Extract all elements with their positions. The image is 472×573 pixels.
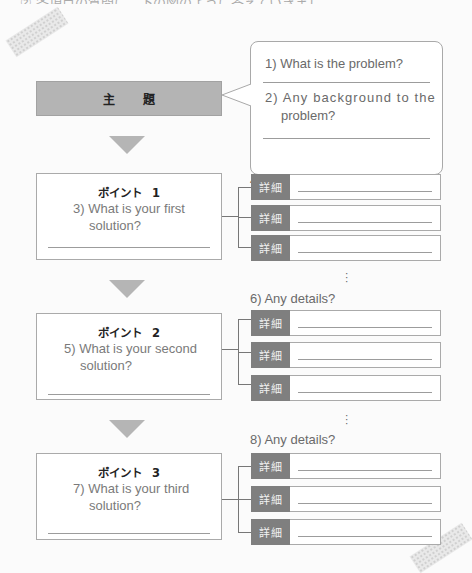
connector-line (238, 319, 251, 320)
bubble-question-2-line2: problem? (265, 108, 335, 123)
point-2-question: 5) What is your second solution? (64, 340, 197, 374)
connector-line (238, 466, 251, 467)
detail-tag: 詳細 (251, 453, 290, 479)
point-1-box: ポイント1 3) What is your first solution? (36, 173, 222, 260)
detail-row: 詳細 (251, 235, 441, 261)
detail-tag: 詳細 (251, 310, 290, 336)
down-arrow-icon (109, 136, 145, 154)
detail-answer-line[interactable] (298, 536, 432, 537)
point-question-line1: 7) What is your third (73, 481, 189, 496)
detail-answer-line[interactable] (298, 222, 432, 223)
point-question-line1: 5) What is your second (64, 341, 197, 356)
detail-answer-line[interactable] (298, 327, 432, 328)
point-question-line2: solution? (73, 217, 185, 234)
detail-row: 詳細 (251, 486, 441, 512)
detail-row: 詳細 (251, 205, 441, 231)
connector-line (238, 499, 251, 500)
down-arrow-icon (109, 280, 145, 298)
point-number: 1 (152, 186, 160, 200)
point-question-line1: 3) What is your first (73, 201, 185, 216)
bubble-question-2: 2) Any background to the problem? (265, 89, 440, 125)
connector-line (222, 349, 238, 350)
details-label-3: 8) Any details? (250, 432, 335, 447)
answer-line[interactable] (48, 247, 210, 248)
connector-line (238, 384, 251, 385)
bubble-tail-icon (221, 84, 253, 108)
point-3-title: ポイント3 (37, 464, 221, 480)
continuation-dots-icon: ··· (345, 272, 348, 284)
detail-tag: 詳細 (251, 205, 290, 231)
detail-answer-line[interactable] (298, 503, 432, 504)
detail-answer-line[interactable] (298, 470, 432, 471)
detail-row: 詳細 (251, 453, 441, 479)
connector-line (222, 216, 238, 217)
bubble-question-2-line1: 2) Any background to the (265, 90, 436, 105)
connector-line (222, 499, 238, 500)
answer-line[interactable] (263, 138, 430, 139)
detail-answer-line[interactable] (298, 359, 432, 360)
point-question-line2: solution? (73, 497, 189, 514)
connector-line (238, 352, 251, 353)
point-title-label: ポイント (98, 466, 142, 480)
point-1-title: ポイント1 (37, 184, 221, 200)
tape-decoration-top-left (6, 7, 69, 58)
detail-tag: 詳細 (251, 375, 290, 401)
detail-answer-line[interactable] (298, 392, 432, 393)
detail-tag: 詳細 (251, 235, 290, 261)
theme-label: 主 題 (103, 90, 167, 107)
answer-line[interactable] (48, 533, 210, 534)
point-number: 3 (152, 466, 160, 480)
detail-tag: 詳細 (251, 342, 290, 368)
theme-questions-bubble: 1) What is the problem? 2) Any backgroun… (250, 41, 443, 175)
detail-tag: 詳細 (251, 174, 290, 200)
detail-row: 詳細 (251, 310, 441, 336)
connector-line (238, 532, 251, 533)
answer-line[interactable] (48, 394, 210, 395)
detail-row: 詳細 (251, 342, 441, 368)
details-label-2: 6) Any details? (250, 291, 335, 306)
connector-line (238, 187, 251, 188)
down-arrow-icon (109, 420, 145, 438)
point-3-question: 7) What is your third solution? (73, 480, 189, 514)
theme-box: 主 題 (36, 81, 222, 116)
detail-answer-line[interactable] (298, 252, 432, 253)
detail-row: 詳細 (251, 174, 441, 200)
detail-tag: 詳細 (251, 486, 290, 512)
point-3-box: ポイント3 7) What is your third solution? (36, 453, 222, 540)
continuation-dots-icon: ··· (345, 414, 348, 426)
detail-row: 詳細 (251, 375, 441, 401)
connector-line (238, 217, 251, 218)
detail-tag: 詳細 (251, 519, 290, 545)
detail-row: 詳細 (251, 519, 441, 545)
answer-line[interactable] (263, 82, 430, 83)
clipped-instruction-text: ② 各項目の質問に、下の図のように答えていきましょう。 (20, 0, 320, 4)
detail-answer-line[interactable] (298, 191, 432, 192)
point-1-question: 3) What is your first solution? (73, 200, 185, 234)
point-2-title: ポイント2 (37, 324, 221, 340)
point-number: 2 (152, 326, 160, 340)
point-title-label: ポイント (98, 326, 142, 340)
point-2-box: ポイント2 5) What is your second solution? (36, 313, 222, 400)
point-question-line2: solution? (64, 357, 197, 374)
bubble-question-1: 1) What is the problem? (265, 55, 403, 73)
point-title-label: ポイント (98, 186, 142, 200)
connector-line (238, 247, 251, 248)
